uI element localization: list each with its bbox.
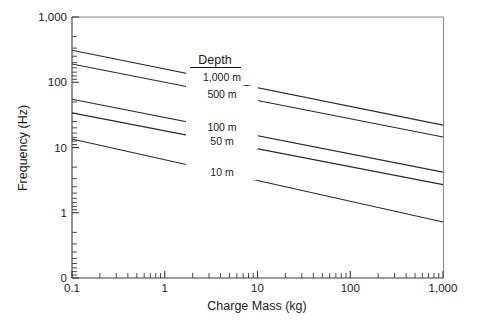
y-axis-ticks [72,17,79,278]
legend-label-10m: 10 m [210,166,234,178]
y-tick-label-10: 10 [54,142,67,154]
x-axis-title: Charge Mass (kg) [207,299,306,313]
chart-figure: 1,000 100 10 1 0 [0,0,480,322]
y-axis-title: Frequency (Hz) [16,105,30,191]
x-tick-label-0-1: 0.1 [64,282,80,294]
y-tick-label-100: 100 [48,76,67,88]
x-tick-label-10: 10 [251,282,264,294]
x-tick-label-100: 100 [341,282,360,294]
y-tick-label-1: 1 [61,207,67,219]
x-tick-label-1000: 1,000 [429,282,458,294]
x-axis-ticks [72,271,443,278]
legend-label-1000m: 1,000 m [203,71,241,83]
y-tick-label-1000: 1,000 [38,11,67,23]
legend-label-500m: 500 m [207,88,236,100]
legend-label-50m: 50 m [210,135,234,147]
legend-label-100m: 100 m [207,121,236,133]
x-axis-tick-labels: 0.1 1 10 100 1,000 [64,282,457,294]
legend-title: Depth [198,53,231,67]
y-axis-tick-labels: 1,000 100 10 1 0 [38,11,67,284]
chart-canvas: 1,000 100 10 1 0 [0,0,480,322]
legend: Depth 1,000 m 500 m 100 m 50 m 10 m [186,52,258,180]
x-tick-label-1: 1 [162,282,168,294]
series-line-10m [72,139,443,222]
